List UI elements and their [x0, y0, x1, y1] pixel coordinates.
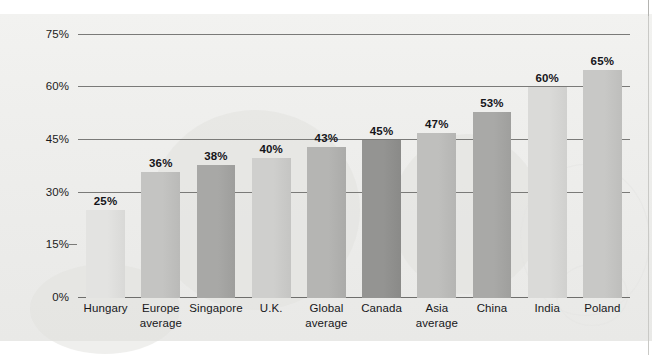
x-axis-label-line2: average [409, 316, 464, 331]
page-edge-rule [648, 0, 649, 355]
x-axis-label-line2: average [133, 316, 188, 331]
bar-series: 25%36%38%40%43%45%47%53%60%65% [78, 24, 630, 298]
chart-page: 0%15%30%45%60%75% 25%36%38%40%43%45%47%5… [0, 0, 659, 355]
bar-value-label: 40% [259, 143, 283, 155]
x-axis-label-asia-average: Asiaaverage [409, 301, 464, 331]
x-axis-label-europe-average: Europeaverage [133, 301, 188, 331]
bar-value-label: 43% [315, 132, 339, 144]
bar-slot: 25% [86, 24, 125, 298]
bar-slot: 38% [197, 24, 236, 298]
x-axis-label-line1: Asia [425, 302, 448, 314]
x-axis-label-line1: U.K. [260, 302, 283, 314]
x-axis-label-line1: Singapore [189, 302, 242, 314]
bar-canada[interactable]: 45% [362, 140, 401, 298]
y-axis-tick-label: 45% [46, 133, 69, 145]
bar-value-label: 25% [94, 195, 118, 207]
x-axis-label-line1: Europe [142, 302, 180, 314]
x-axis-label-hungary: Hungary [78, 301, 133, 316]
bar-china[interactable]: 53% [473, 112, 512, 298]
x-axis-label-line1: Hungary [84, 302, 128, 314]
bar-slot: 45% [362, 24, 401, 298]
bar-value-label: 65% [591, 55, 615, 67]
x-axis-label-poland: Poland [575, 301, 630, 316]
x-axis-label-line1: China [477, 302, 508, 314]
plot-area: 0%15%30%45%60%75% 25%36%38%40%43%45%47%5… [78, 24, 630, 298]
x-axis-label-line2: average [299, 316, 354, 331]
bar-value-label: 36% [149, 157, 173, 169]
y-axis-tick-label: 60% [46, 80, 69, 92]
page-edge-rule-top [648, 0, 649, 16]
bar-value-label: 47% [425, 118, 449, 130]
bar-global-average[interactable]: 43% [307, 147, 346, 298]
x-axis-label-india: India [520, 301, 575, 316]
x-axis-label-line1: India [534, 302, 559, 314]
bar-europe-average[interactable]: 36% [141, 172, 180, 298]
bar-value-label: 45% [370, 125, 394, 137]
bar-asia-average[interactable]: 47% [417, 133, 456, 298]
x-axis-label-line1: Poland [584, 302, 620, 314]
x-axis-labels: HungaryEuropeaverageSingaporeU.K.Globala… [78, 301, 630, 347]
bar-slot: 65% [583, 24, 622, 298]
y-axis-tick-label: 0% [52, 291, 69, 303]
y-axis-tick-label: 30% [46, 186, 69, 198]
bar-hungary[interactable]: 25% [86, 210, 125, 298]
bar-india[interactable]: 60% [528, 87, 567, 298]
bar-singapore[interactable]: 38% [197, 165, 236, 298]
bar-value-label: 60% [535, 72, 559, 84]
x-axis-label-canada: Canada [354, 301, 409, 316]
bar-poland[interactable]: 65% [583, 70, 622, 298]
bar-slot: 47% [417, 24, 456, 298]
y-axis-tick-label: 15% [46, 238, 69, 250]
x-axis-label-line1: Global [309, 302, 343, 314]
y-axis-tick-stub [69, 244, 77, 245]
x-axis-label-china: China [464, 301, 519, 316]
x-axis-label-global-average: Globalaverage [299, 301, 354, 331]
bar-slot: 53% [473, 24, 512, 298]
bar-value-label: 53% [480, 97, 504, 109]
x-axis-label-line1: Canada [361, 302, 402, 314]
x-axis-label-u-k: U.K. [244, 301, 299, 316]
x-axis-label-singapore: Singapore [188, 301, 243, 316]
bar-u-k[interactable]: 40% [252, 158, 291, 299]
bar-slot: 43% [307, 24, 346, 298]
bar-slot: 60% [528, 24, 567, 298]
bar-slot: 40% [252, 24, 291, 298]
y-axis-tick-label: 75% [46, 28, 69, 40]
bar-slot: 36% [141, 24, 180, 298]
bar-value-label: 38% [204, 150, 228, 162]
